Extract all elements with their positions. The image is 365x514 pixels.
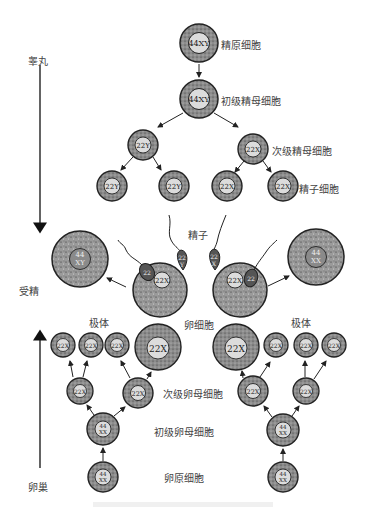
svg-text:22: 22	[210, 253, 218, 260]
ovum-label: 卵细胞	[184, 317, 214, 332]
first-polar-body-right: 22X	[293, 378, 319, 404]
svg-text:22Y: 22Y	[167, 183, 181, 191]
svg-text:X: X	[212, 260, 217, 267]
svg-text:22X: 22X	[300, 342, 313, 349]
spermatid-2: 22Y	[159, 171, 189, 201]
sperm-label: 精子	[188, 227, 208, 242]
svg-text:XX: XX	[279, 477, 287, 483]
svg-text:22X: 22X	[328, 342, 341, 349]
primary-spermatocyte-label: 初级精母细胞	[221, 93, 281, 108]
svg-text:22X: 22X	[227, 344, 245, 354]
oogonium-right: 44 XX	[268, 462, 298, 492]
fertilizing-egg-left: 22X 22	[118, 240, 187, 317]
svg-text:22X: 22X	[228, 277, 242, 285]
svg-text:44: 44	[312, 249, 321, 257]
svg-text:22X: 22X	[220, 183, 234, 191]
svg-text:XY: XY	[75, 259, 85, 267]
svg-text:22X: 22X	[276, 183, 290, 191]
secondary-spermatocyte-label: 次级精母细胞	[272, 143, 332, 158]
polar-body-left-1: 22X	[51, 333, 75, 357]
svg-text:44XY: 44XY	[188, 95, 210, 104]
ovum-right: 22X	[213, 324, 259, 370]
testis-label: 睾丸	[28, 53, 48, 68]
svg-text:44XY: 44XY	[188, 39, 210, 48]
polar-body-right-1: 22X	[264, 333, 288, 357]
zygote-left: 44 XY	[52, 231, 108, 287]
polar-body-right-2: 22X	[294, 333, 318, 357]
polar-body-left-2: 22X	[79, 333, 103, 357]
spermatid-3: 22X	[212, 171, 242, 201]
polar-body-label-left: 极体	[89, 315, 109, 330]
primary-oocyte-label: 初级卵母细胞	[154, 424, 214, 439]
svg-text:22X: 22X	[132, 390, 145, 398]
fertilization-label: 受精	[19, 283, 39, 298]
ovary-label: 卵巢	[28, 479, 48, 494]
sperm-x: 22 X	[210, 215, 226, 270]
oogonium-left: 44 XX	[88, 462, 118, 492]
primary-oocyte-left: 44 XX	[87, 413, 119, 445]
svg-text:22X: 22X	[149, 344, 167, 354]
svg-text:22X: 22X	[155, 277, 169, 285]
gametogenesis-diagram: 44XY 44XY 22Y 22X 22Y 22Y 22X	[0, 0, 365, 514]
svg-text:XX: XX	[311, 257, 321, 265]
svg-text:22X: 22X	[246, 146, 260, 154]
primary-oocyte-right: 44 XX	[267, 414, 299, 446]
spermatogonium-cell: 44XY	[180, 24, 218, 62]
figure-caption	[93, 502, 273, 507]
sperm-y: 22 Y	[169, 215, 187, 270]
first-polar-body-left: 22X	[67, 378, 93, 404]
polar-body-label-right: 极体	[291, 315, 311, 330]
svg-text:22Y: 22Y	[105, 183, 119, 191]
secondary-spermatocyte-x: 22X	[238, 134, 268, 164]
oogonium-label: 卵原细胞	[164, 470, 204, 485]
fertilizing-egg-right: 22X 22	[213, 240, 277, 317]
svg-text:XX: XX	[279, 430, 287, 436]
secondary-spermatocyte-y: 22Y	[128, 130, 158, 160]
polar-body-right-3: 22X	[322, 333, 346, 357]
svg-text:22: 22	[143, 269, 151, 276]
spermatogonium-label: 精原细胞	[221, 37, 261, 52]
secondary-oocyte-right: 22X	[238, 376, 268, 406]
secondary-oocyte-left: 22X	[123, 378, 153, 408]
svg-text:22X: 22X	[74, 388, 87, 395]
svg-text:XX: XX	[99, 429, 107, 435]
svg-text:22X: 22X	[111, 342, 124, 349]
ovum-left: 22X	[135, 324, 181, 370]
svg-text:44: 44	[76, 251, 85, 259]
primary-spermatocyte-cell: 44XY	[180, 80, 218, 118]
svg-text:22X: 22X	[85, 342, 98, 349]
zygote-right: 44 XX	[288, 229, 344, 285]
polar-body-left-3: 22X	[105, 333, 129, 357]
svg-text:22X: 22X	[247, 388, 260, 396]
svg-text:22X: 22X	[57, 342, 70, 349]
secondary-oocyte-label: 次级卵母细胞	[163, 386, 223, 401]
spermatid-1: 22Y	[97, 171, 127, 201]
spermatid-4: 22X	[268, 171, 298, 201]
svg-text:XX: XX	[99, 477, 107, 483]
svg-text:22Y: 22Y	[136, 142, 150, 150]
spermatid-label: 精子细胞	[299, 181, 339, 196]
svg-text:22X: 22X	[270, 342, 283, 349]
svg-text:22X: 22X	[300, 388, 313, 395]
svg-text:22: 22	[178, 254, 186, 261]
svg-text:22: 22	[247, 275, 255, 282]
